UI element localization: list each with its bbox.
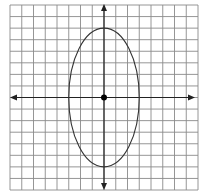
coordinate-plane bbox=[0, 0, 203, 195]
arrow-left-icon bbox=[10, 95, 17, 101]
arrow-down-icon bbox=[101, 183, 107, 190]
center-point bbox=[101, 95, 107, 101]
arrow-right-icon bbox=[188, 95, 195, 101]
